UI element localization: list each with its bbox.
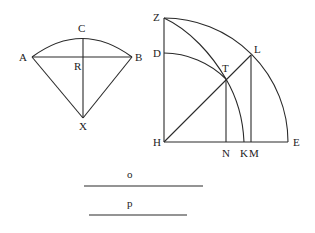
geometry-diagram: A B C R X Z D L T H N K M E o p bbox=[0, 0, 315, 233]
segments: o p bbox=[84, 168, 203, 215]
label-o: o bbox=[127, 168, 133, 180]
label-Z: Z bbox=[153, 11, 160, 23]
label-L: L bbox=[254, 43, 261, 55]
quadratrix-ZTK bbox=[164, 18, 244, 142]
sector-figure: A B C R X bbox=[19, 22, 142, 132]
label-A: A bbox=[19, 51, 27, 63]
label-M: M bbox=[249, 147, 259, 159]
arc-DT bbox=[164, 53, 226, 79]
label-C: C bbox=[78, 22, 85, 34]
label-D: D bbox=[153, 47, 161, 59]
label-H: H bbox=[153, 136, 161, 148]
label-B: B bbox=[135, 51, 142, 63]
label-X: X bbox=[79, 120, 87, 132]
arc-ACB bbox=[32, 39, 132, 58]
label-N: N bbox=[222, 147, 230, 159]
label-R: R bbox=[74, 60, 82, 72]
label-K: K bbox=[240, 147, 248, 159]
label-E: E bbox=[293, 136, 300, 148]
quadrant-figure: Z D L T H N K M E bbox=[153, 11, 300, 159]
label-T: T bbox=[222, 62, 229, 74]
radius-BX bbox=[83, 57, 132, 118]
line-HL bbox=[164, 55, 251, 142]
label-p: p bbox=[127, 197, 133, 209]
